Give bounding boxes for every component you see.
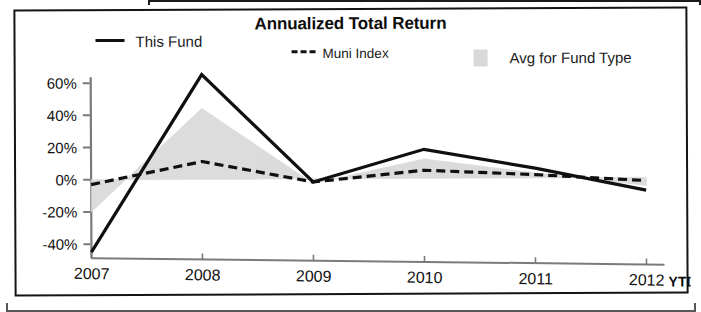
y-axis-tick-label: 0% (55, 171, 77, 188)
x-axis-tick-label: 2009 (296, 267, 332, 285)
x-axis-tick-label: 2008 (185, 266, 221, 284)
chart-plot-area: 60%40%20%0%-20%-40%200720082009201020112… (15, 9, 690, 299)
adjacent-frame-bottom-edge (6, 303, 696, 312)
adjacent-frame-top-edge (148, 0, 701, 5)
x-axis-tick-label: 2012 (629, 271, 665, 289)
chart-panel: Annualized Total Return This Fund Muni I… (13, 7, 688, 297)
series-area-avg-for-fund-type (91, 106, 646, 211)
y-axis-tick-label: -20% (42, 203, 77, 220)
scanned-page: Annualized Total Return This Fund Muni I… (0, 0, 701, 312)
x-axis-tick-label: 2010 (407, 269, 443, 287)
x-axis-tick-label: 2007 (74, 265, 110, 283)
x-axis-ytd-note: YTD (669, 273, 691, 289)
x-axis-tick-label: 2011 (518, 270, 553, 288)
y-axis-tick-label: 60% (47, 75, 77, 92)
y-axis-tick-label: -40% (42, 236, 77, 253)
y-axis-tick-label: 40% (47, 107, 77, 124)
y-axis-tick-label: 20% (47, 139, 77, 156)
